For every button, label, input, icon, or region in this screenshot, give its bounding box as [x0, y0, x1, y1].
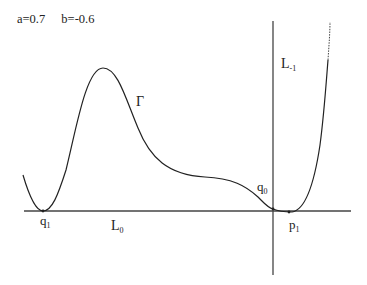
label-L0: L0 — [111, 219, 124, 235]
label-q0: q0 — [257, 180, 268, 196]
curve-gamma — [23, 68, 292, 212]
param-a: a=0.7 — [17, 12, 45, 26]
point-q0 — [272, 208, 275, 211]
param-b: b=-0.6 — [61, 12, 94, 26]
label-p1: p1 — [289, 218, 300, 234]
point-p1 — [288, 211, 291, 214]
label-q1: q1 — [40, 214, 51, 230]
label-L-minus1: L-1 — [281, 57, 296, 73]
label-gamma: Γ — [136, 95, 144, 109]
curve-gamma-right-branch — [292, 60, 328, 212]
phase-diagram — [0, 0, 367, 285]
curve-gamma-dashed-tail — [328, 22, 330, 60]
parameter-values: a=0.7 b=-0.6 — [17, 12, 94, 27]
point-q1 — [42, 210, 45, 213]
